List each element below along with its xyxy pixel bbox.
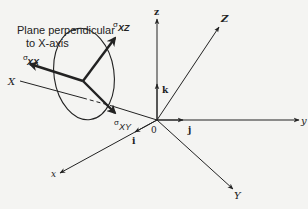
X-axis-outer [20,81,83,98]
svg-text:XY: XY [118,122,132,132]
rotated-axes [20,27,233,189]
Y-axis [157,120,233,189]
svg-text:XZ: XZ [117,23,130,33]
Z-axis [157,27,219,120]
label-Z: Z [220,13,229,24]
fixed-axes [60,19,299,173]
svg-text:XX: XX [26,57,40,67]
label-z: z [154,7,159,17]
label-X: X [7,76,16,87]
label-x: x [51,169,56,179]
label-Y: Y [234,190,242,201]
sigma-xy-label: σ XY [114,118,132,132]
sigma-xy-vector [83,81,115,113]
stress-diagram: Plane perpendicular to X-axis σ XZ σ XX … [0,0,308,209]
label-y: y [300,115,307,126]
sigma-xx-label: σ XX [23,53,40,67]
annotation-line1: Plane perpendicular [17,24,115,36]
sigma-xz-vector [83,38,115,81]
label-j: j [187,125,191,135]
sigma-xz-label: σ XZ [113,20,130,33]
label-origin: 0 [151,125,157,135]
annotation-line2: to X-axis [26,37,69,49]
label-i: i [132,136,136,146]
stress-vectors [30,38,115,113]
label-k: k [162,85,169,95]
